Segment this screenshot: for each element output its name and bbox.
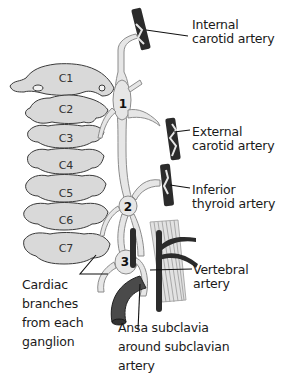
svg-text:1: 1: [119, 97, 127, 111]
label-external-carotid-artery: External carotid artery: [192, 125, 274, 153]
svg-text:C3: C3: [59, 132, 74, 145]
svg-text:C5: C5: [59, 187, 74, 200]
label-ansa-subclavia: Ansa subclavia around subclavian artery: [118, 318, 229, 375]
external-carotid-artery: [165, 118, 181, 161]
label-inferior-thyroid-artery: Inferior thyroid artery: [192, 183, 275, 211]
label-internal-carotid-artery: Internal carotid artery: [192, 18, 274, 46]
label-vertebral-artery: Vertebral artery: [193, 263, 248, 291]
muscle-fibers: [150, 220, 186, 302]
svg-text:C1: C1: [59, 72, 74, 85]
svg-text:3: 3: [121, 255, 129, 269]
svg-text:C7: C7: [59, 242, 74, 255]
svg-text:C4: C4: [59, 159, 74, 172]
svg-text:C2: C2: [59, 103, 74, 116]
subclavian-artery: [111, 276, 146, 322]
svg-text:C6: C6: [59, 214, 74, 227]
svg-text:2: 2: [124, 200, 132, 214]
label-cardiac-branches: Cardiac branches from each ganglion: [22, 275, 83, 351]
internal-carotid-artery: [131, 7, 151, 50]
